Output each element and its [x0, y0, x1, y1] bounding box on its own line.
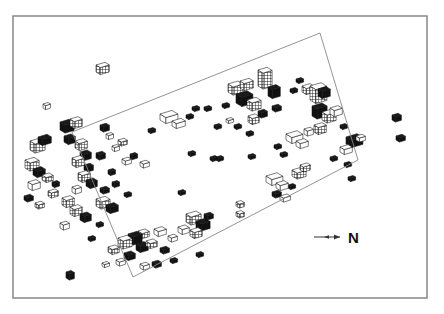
building-block: [222, 103, 230, 109]
building-block: [186, 114, 194, 120]
building-block: [122, 157, 131, 165]
building-block: [52, 181, 60, 188]
building-block: [42, 173, 53, 183]
building-block: [108, 245, 119, 255]
building-block: [192, 106, 200, 112]
building-block: [280, 152, 288, 158]
building-block: [60, 221, 69, 230]
building-block: [28, 180, 40, 191]
building-block: [170, 258, 178, 264]
building-block: [204, 212, 213, 220]
building-block: [296, 78, 304, 84]
building-block: [178, 190, 186, 196]
building-block: [314, 123, 326, 135]
building-block: [274, 144, 282, 150]
building-block: [236, 211, 244, 219]
building-block: [258, 67, 272, 89]
building-block: [96, 62, 109, 74]
building-block: [118, 138, 127, 146]
building-block: [72, 185, 81, 194]
north-arrow-label: N: [348, 229, 359, 246]
building-block: [160, 246, 169, 254]
building-block: [248, 154, 256, 160]
building-block: [43, 103, 51, 110]
building-block: [88, 236, 96, 242]
building-block: [348, 176, 356, 182]
building-block: [318, 87, 330, 99]
building-block: [106, 203, 118, 214]
building-block: [216, 156, 224, 162]
building-block: [80, 212, 91, 223]
building-block: [304, 127, 313, 136]
building-block: [62, 196, 74, 208]
building-block: [124, 192, 132, 198]
building-block: [272, 104, 281, 112]
building-block: [247, 97, 261, 111]
building-massing-map: N: [0, 0, 444, 314]
building-block: [106, 133, 114, 140]
building-block: [102, 262, 110, 268]
building-block: [396, 134, 405, 142]
building-block: [288, 184, 296, 190]
building-block: [112, 145, 120, 152]
building-block: [116, 258, 125, 266]
building-block: [248, 114, 259, 125]
figure-container: N: [0, 0, 444, 314]
building-block: [240, 78, 253, 90]
building-block: [130, 153, 138, 160]
building-block: [236, 201, 244, 209]
building-block: [190, 228, 202, 239]
building-block: [392, 113, 401, 122]
building-block: [48, 189, 58, 198]
building-block: [330, 156, 338, 162]
building-block: [24, 194, 33, 202]
building-block: [108, 169, 116, 176]
building-block: [356, 134, 365, 142]
building-block: [66, 271, 74, 281]
building-block: [300, 163, 310, 172]
building-block: [226, 118, 234, 124]
building-block: [204, 106, 212, 112]
building-block: [246, 131, 254, 137]
building-block: [96, 222, 104, 228]
building-block: [330, 106, 342, 117]
building-block: [35, 201, 44, 209]
building-block: [112, 181, 120, 188]
building-block: [340, 124, 348, 130]
building-block: [148, 128, 156, 134]
building-block: [178, 225, 189, 235]
building-block: [214, 124, 222, 130]
building-block: [234, 124, 242, 130]
building-block: [258, 109, 267, 118]
building-block: [188, 151, 196, 157]
building-block: [168, 234, 177, 242]
building-block: [152, 260, 161, 268]
building-block: [268, 85, 280, 99]
building-block: [146, 239, 157, 249]
building-block: [140, 160, 149, 168]
building-block: [70, 117, 82, 129]
building-block: [196, 252, 204, 258]
building-block: [100, 186, 109, 194]
building-block: [100, 123, 109, 132]
building-block: [290, 88, 298, 94]
building-block: [96, 151, 105, 160]
